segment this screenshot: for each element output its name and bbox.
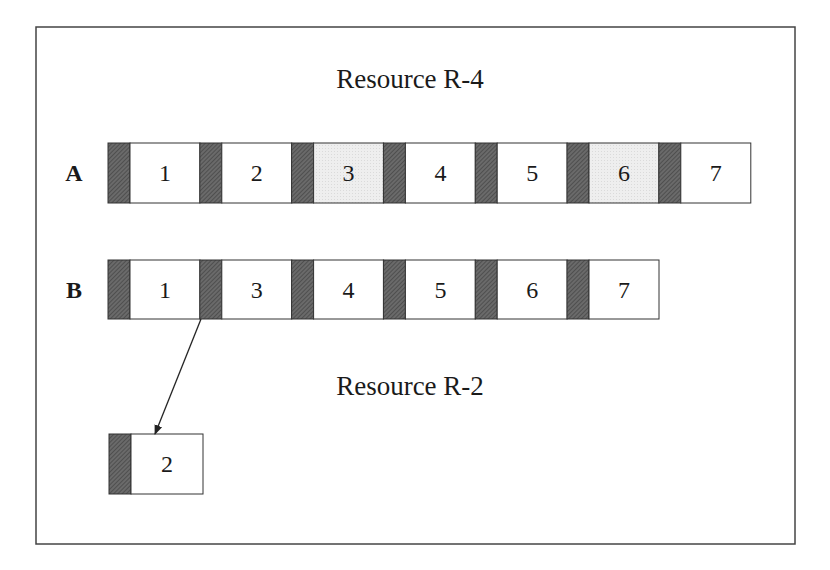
job-number: 5 — [434, 277, 446, 303]
setup-block — [292, 143, 314, 203]
setup-block — [383, 260, 405, 319]
row-label: B — [66, 277, 82, 303]
resource-diagram: Resource R-4Resource R-2 A1234567B134567… — [0, 0, 830, 570]
job-number: 5 — [526, 160, 538, 186]
job-number: 4 — [434, 160, 446, 186]
row-label: A — [65, 160, 83, 186]
job-number: 1 — [159, 160, 171, 186]
resource-r2-row: 2 — [109, 434, 203, 494]
job-number: 6 — [618, 160, 630, 186]
row-b: B134567 — [66, 260, 659, 319]
title-resource-r4: Resource R-4 — [336, 64, 484, 94]
setup-block — [292, 260, 314, 319]
setup-block — [567, 143, 589, 203]
job-number: 2 — [161, 451, 173, 477]
setup-block — [108, 260, 130, 319]
setup-block — [475, 260, 497, 319]
job-number: 4 — [343, 277, 355, 303]
setup-block — [383, 143, 405, 203]
job-number: 3 — [251, 277, 263, 303]
job-number: 1 — [159, 277, 171, 303]
setup-block — [109, 434, 131, 494]
reassignment-arrow — [155, 319, 201, 434]
setup-block — [659, 143, 681, 203]
job-number: 7 — [710, 160, 722, 186]
job-number: 7 — [618, 277, 630, 303]
job-number: 6 — [526, 277, 538, 303]
job-number: 2 — [251, 160, 263, 186]
setup-block — [567, 260, 589, 319]
row-a: A1234567 — [65, 143, 750, 203]
setup-block — [200, 143, 222, 203]
setup-block — [108, 143, 130, 203]
setup-block — [200, 260, 222, 319]
setup-block — [475, 143, 497, 203]
job-number: 3 — [343, 160, 355, 186]
title-resource-r2: Resource R-2 — [336, 371, 484, 401]
